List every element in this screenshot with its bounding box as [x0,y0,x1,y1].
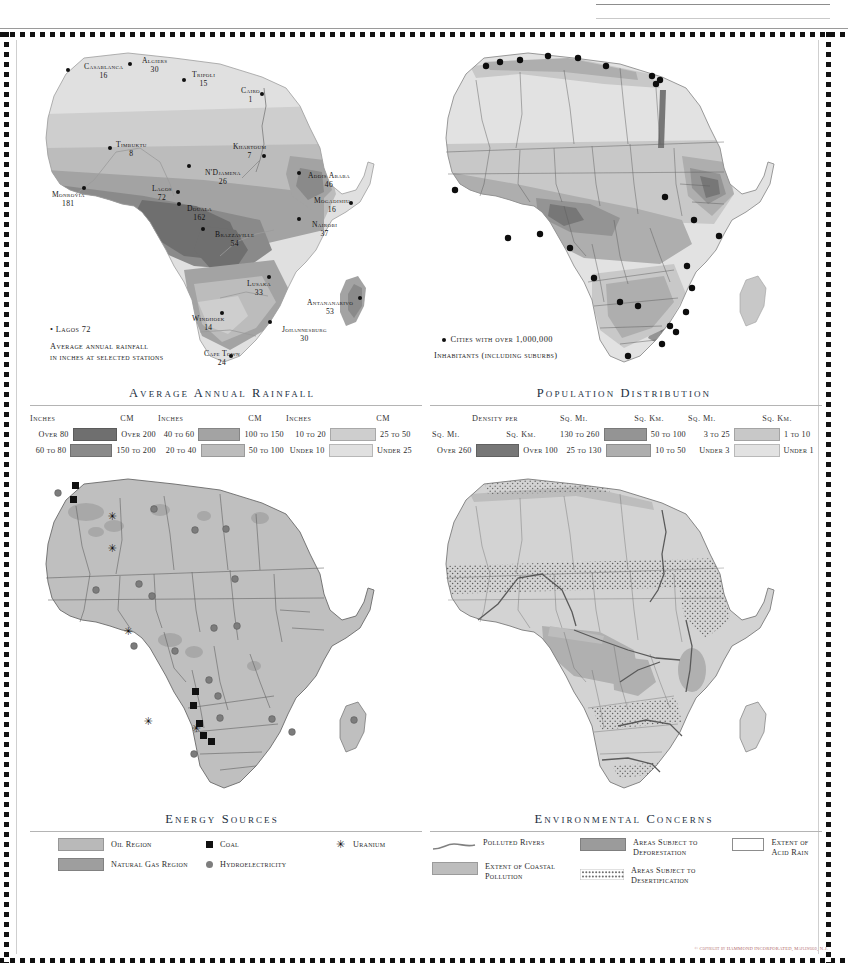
population-key-line2: Inhabitants (including suburbs) [434,350,557,362]
rainfall-key: • Lagos 72 Average annual rainfall in in… [50,324,164,364]
city-name: Mogadishu [314,196,350,205]
legend-color-swatch [70,444,112,457]
city-name: Lusaka [247,279,271,288]
city-name: Lagos [152,184,172,193]
hydroelectricity-symbol-icon [206,861,213,868]
legend-cm-range: Under 25 [377,446,412,455]
rainfall-city-label: Addis Ababa46 [308,171,350,189]
rainfall-legend-row: 20 to 4050 to 100 [158,444,284,457]
rainfall-city-label: Khartoum7 [233,142,266,160]
rainfall-legend-row: Under 10Under 25 [286,444,412,457]
city-name: Johannesburg [282,325,327,334]
acid-rain-symbol-icon [732,838,764,851]
environment-legend-label: Polluted Rivers [483,838,545,848]
legend-inches-range: 60 to 80 [30,446,66,455]
population-legend: Density perSq. Mi.Sq. Km.Over 260Over 10… [432,412,828,464]
city-value: 15 [192,79,215,88]
polluted-river-symbol-icon [432,838,476,856]
population-legend-row: Over 260Over 100 [432,444,558,457]
legend-header-sqkm: Sq. Km. [762,414,792,423]
rainfall-city-label: Cape Town24 [204,349,240,367]
legend-cm-range: 50 to 100 [249,446,284,455]
energy-legend-row: Coal [206,838,239,851]
border-left [4,32,9,963]
legend-sqkm-range: 50 to 100 [651,430,686,439]
svg-text:✳: ✳ [107,542,116,555]
environment-legend-row: Extent of Acid Rain [732,838,824,858]
city-name: Nairobi [312,220,337,229]
legend-color-swatch [432,862,478,875]
population-legend-group: Sq. Mi.Sq. Km.130 to 26050 to 10025 to 1… [560,412,686,460]
svg-text:✳: ✳ [123,625,132,638]
density-per-label: Density per [432,412,558,425]
legend-header-cm: CM [120,414,134,423]
rainfall-legend-row: 60 to 80150 to 200 [30,444,156,457]
legend-header-cm: CM [376,414,390,423]
city-name: Windhoek [192,314,225,323]
svg-text:✳: ✳ [143,715,152,728]
rainfall-city-label: Antananarivo53 [307,298,353,316]
energy-legend: Oil RegionNatural Gas RegionCoalHydroele… [58,838,438,880]
legend-color-swatch [580,838,626,851]
city-name: Cairo [241,86,260,95]
legend-inches-range: 20 to 40 [158,446,197,455]
legend-column-headers: Sq. Mi.Sq. Km. [688,412,814,425]
environment-legend-row: Extent of Coastal Pollution [432,862,579,882]
rainfall-legend-group: InchesCM10 to 2025 to 50Under 10Under 25 [286,412,412,460]
environment-legend-label: Extent of Acid Rain [771,838,824,858]
city-value: 181 [52,199,85,208]
desertification-symbol-icon [580,866,624,884]
uranium-symbol-icon: ✳ [334,839,346,850]
legend-inches-range: 40 to 60 [158,430,194,439]
population-legend-row: 130 to 26050 to 100 [560,428,686,441]
map-environment[interactable] [424,470,824,800]
legend-sqmi-range: Under 3 [688,446,730,455]
energy-legend-label: Coal [220,840,239,849]
svg-text:✳: ✳ [191,722,200,735]
legend-header-sqkm: Sq. Km. [634,414,664,423]
page-top-rule [0,28,848,29]
energy-legend-label: Uranium [353,840,385,849]
legend-header-inches: Inches [286,414,311,423]
legend-sqmi-range: 25 to 130 [560,446,602,455]
legend-column-headers: Sq. Mi.Sq. Km. [432,428,558,441]
environment-title: Environmental Concerns [424,812,824,827]
header-rule-upper [596,4,830,5]
environment-legend-row: Polluted Rivers [432,838,545,856]
legend-sqkm-range: Over 100 [523,446,558,455]
city-name: Douala [187,204,212,213]
energy-legend-row: ✳Uranium [334,838,385,851]
city-value: 162 [187,213,212,222]
map-energy[interactable]: ✳✳ ✳✳✳ [24,470,420,800]
city-value: 26 [205,177,241,186]
header-rule-lower [596,18,830,19]
city-value: 46 [308,180,350,189]
legend-sqkm-range: 10 to 50 [655,446,686,455]
city-name: Addis Ababa [308,171,350,180]
city-value: 33 [247,288,271,297]
legend-cm-range: 150 to 200 [116,446,156,455]
energy-legend-row: Hydroelectricity [206,858,286,871]
city-name: Cape Town [204,349,240,358]
legend-color-swatch [476,444,520,457]
city-value: 37 [312,229,337,238]
energy-legend-row: Oil Region [58,838,152,851]
population-key: Cities with over 1,000,000 Inhabitants (… [434,334,557,361]
legend-color-swatch [734,428,780,441]
city-value: 1 [241,95,260,104]
city-name: Tripoli [192,70,215,79]
legend-sqkm-range: Under 1 [784,446,815,455]
energy-legend-label: Oil Region [111,840,152,849]
energy-legend-row: Natural Gas Region [58,858,188,871]
rainfall-city-label: Mogadishu16 [314,196,350,214]
environment-legend-row: Areas Subject to Desertification [580,866,725,886]
map-population[interactable]: Cities with over 1,000,000 Inhabitants (… [424,44,824,374]
map-rainfall[interactable]: Casablanca16Algiers30Tripoli15Cairo1Timb… [24,44,420,374]
rainfall-city-label: Windhoek14 [192,314,225,332]
legend-color-swatch [58,858,104,871]
rainfall-city-label: N'Djamena26 [205,168,241,186]
legend-cm-range: 100 to 150 [244,430,284,439]
rainfall-city-label: Nairobi37 [312,220,337,238]
rainfall-city-label: Douala162 [187,204,212,222]
rainfall-title-rule [30,405,422,406]
